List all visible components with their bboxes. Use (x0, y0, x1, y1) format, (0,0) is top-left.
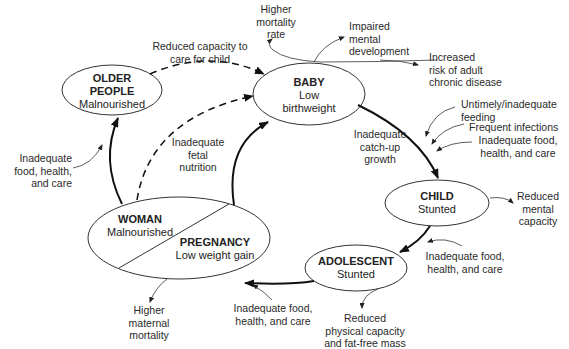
pregnancy-status: Low weight gain (170, 249, 260, 262)
node-pregnancy: PREGNANCY Low weight gain (170, 236, 260, 262)
label-reduced-capacity-care: Reduced capacity tocare for child (145, 40, 255, 65)
baby-line2: birthweight (268, 102, 350, 115)
label-higher-mortality: Highermortalityrate (246, 3, 306, 41)
baby-line1: Low (268, 89, 350, 102)
baby-title: BABY (268, 76, 350, 89)
woman-status: Malnourished (100, 226, 180, 239)
child-status: Stunted (397, 203, 477, 216)
older-title1: OLDER (72, 72, 152, 85)
adolescent-status: Stunted (311, 268, 401, 281)
label-frequent-infections: Frequent infections (469, 121, 558, 134)
node-adolescent: ADOLESCENT Stunted (311, 255, 401, 281)
label-increased-risk: Increasedrisk of adultchronic disease (429, 51, 502, 89)
label-inadequate-adolescent: Inadequate food,health, and care (420, 250, 510, 275)
label-inadequate-child: Inadequate food,health, and care (468, 134, 568, 159)
label-catch-up-growth: Inadequatecatch-upgrowth (350, 128, 410, 166)
label-reduced-mental-capacity: Reducedmentalcapacity (510, 190, 566, 228)
node-child: CHILD Stunted (397, 190, 477, 216)
node-woman: WOMAN Malnourished (100, 213, 180, 239)
child-title: CHILD (397, 190, 477, 203)
node-older-people: OLDER PEOPLE Malnourished (72, 72, 152, 111)
older-status: Malnourished (79, 98, 145, 110)
label-higher-maternal-mortality: Highermaternalmortality (119, 304, 179, 342)
label-inadequate-older: Inadequatefood, health,and care (4, 152, 72, 190)
node-baby: BABY Low birthweight (268, 76, 350, 115)
label-impaired-mental: Impairedmentaldevelopment (349, 20, 409, 58)
label-inadequate-pregnancy: Inadequate food,health, and care (228, 302, 318, 327)
label-reduced-physical: Reducedphysical capacityand fat-free mas… (315, 312, 415, 349)
woman-title: WOMAN (100, 213, 180, 226)
label-untimely-feeding: Untimely/inadequatefeeding (461, 98, 557, 123)
label-fetal-nutrition: Inadequatefetalnutrition (166, 136, 230, 174)
adolescent-title: ADOLESCENT (311, 255, 401, 268)
pregnancy-title: PREGNANCY (170, 236, 260, 249)
older-title2: PEOPLE (72, 85, 152, 98)
